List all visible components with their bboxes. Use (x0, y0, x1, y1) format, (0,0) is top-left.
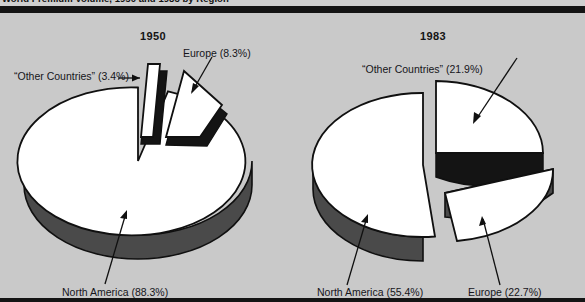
chart-1950-label-north-america: North America (88.3%) (62, 286, 168, 298)
chart-1950-label-europe: Europe (8.3%) (183, 47, 251, 59)
slice-other-1983-top (436, 81, 543, 153)
figure-world-premium-volume: World Premium Volume, 1950 and 1983 by R… (0, 0, 585, 302)
chart-1983-label-europe: Europe (22.7%) (468, 286, 542, 298)
title-rule-top (0, 6, 585, 13)
chart-1983-label-north-america: North America (55.4%) (317, 286, 423, 298)
pie-chart-1950 (0, 13, 300, 298)
pie-chart-1983 (295, 13, 585, 298)
chart-1983-label-other: “Other Countries” (21.9%) (362, 63, 483, 75)
charts-panel: 1950 (0, 13, 585, 298)
figure-rule-bottom (0, 298, 585, 302)
chart-1950-label-other: “Other Countries” (3.4%) (14, 70, 129, 82)
figure-title: World Premium Volume, 1950 and 1983 by R… (2, 0, 229, 4)
